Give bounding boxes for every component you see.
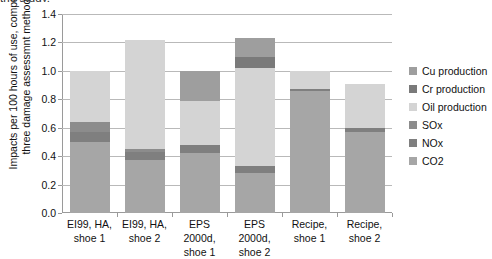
legend-item-label: Cu production — [422, 65, 487, 77]
y-axis-tick-label: 0.4 — [41, 150, 56, 162]
x-axis-category-label-line: shoe 2 — [117, 231, 173, 245]
x-axis-category-label-line: shoe 2 — [337, 231, 393, 245]
gridline — [62, 185, 392, 186]
y-axis-tick-mark — [58, 42, 62, 43]
bar-stack[interactable] — [345, 14, 385, 213]
x-axis-category-label-line: EPS 2000d, — [227, 217, 283, 245]
gridline — [62, 14, 392, 15]
bar-segment[interactable] — [180, 101, 220, 145]
bar-segment[interactable] — [235, 173, 275, 213]
x-axis-category-label-line: shoe 2 — [227, 245, 283, 259]
bar-segment[interactable] — [290, 71, 330, 89]
y-axis-tick-mark — [58, 128, 62, 129]
gridline — [62, 128, 392, 129]
legend-swatch-icon — [409, 157, 417, 165]
x-axis-category-label: Recipe,shoe 1 — [282, 217, 338, 245]
legend-swatch-icon — [409, 139, 417, 147]
bar-segment[interactable] — [290, 91, 330, 213]
bar-segment[interactable] — [70, 132, 110, 142]
bar-segment[interactable] — [125, 152, 165, 161]
y-axis-tick-label: 0.8 — [41, 93, 56, 105]
legend-item[interactable]: CO2 — [409, 152, 492, 170]
legend-item[interactable]: Cr production — [409, 80, 492, 98]
y-axis-tick-mark — [58, 14, 62, 15]
y-axis-tick-label: 0.0 — [41, 207, 56, 219]
y-axis-tick-mark — [58, 99, 62, 100]
x-axis-category-label-line: EI99, HA, — [62, 217, 118, 231]
x-axis-category-label-line: Recipe, — [282, 217, 338, 231]
x-axis-category-label: Recipe,shoe 2 — [337, 217, 393, 245]
legend-item[interactable]: Cu production — [409, 62, 492, 80]
chart-plot-wrapper: 0.00.20.40.60.81.01.21.4 EI99, HA,shoe 1… — [62, 14, 392, 213]
bar-stack[interactable] — [180, 14, 220, 213]
bar-segment[interactable] — [125, 40, 165, 149]
y-axis-tick-label: 1.2 — [41, 36, 56, 48]
bar-stack[interactable] — [70, 14, 110, 213]
x-axis-category-label-line: shoe 1 — [172, 245, 228, 259]
gridline — [62, 42, 392, 43]
bar-segment[interactable] — [125, 160, 165, 213]
bar-segment[interactable] — [345, 128, 385, 132]
x-axis-category-label-line: shoe 1 — [62, 231, 118, 245]
y-axis-tick-label: 1.4 — [41, 8, 56, 20]
y-axis-tick-label: 1.0 — [41, 65, 56, 77]
bar-segment[interactable] — [235, 166, 275, 173]
x-axis-category-label: EPS 2000d,shoe 1 — [172, 217, 228, 259]
gridline — [62, 99, 392, 100]
bar-segment[interactable] — [345, 132, 385, 213]
x-axis-category-label-line: EI99, HA, — [117, 217, 173, 231]
legend-swatch-icon — [409, 103, 417, 111]
y-axis-title: Impacts per 100 hours of use, comparing … — [4, 0, 36, 169]
y-axis-tick-mark — [58, 156, 62, 157]
x-axis-category-label-line: Recipe, — [337, 217, 393, 231]
legend-swatch-icon — [409, 85, 417, 93]
legend-item-label: NOx — [422, 137, 443, 149]
bar-stack[interactable] — [235, 14, 275, 213]
bar-segment[interactable] — [70, 142, 110, 213]
bar-stack[interactable] — [290, 14, 330, 213]
x-axis-category-label-line: EPS 2000d, — [172, 217, 228, 245]
bar-segment[interactable] — [180, 153, 220, 213]
x-axis-category-label-line: shoe 1 — [282, 231, 338, 245]
y-axis-tick-label: 0.2 — [41, 179, 56, 191]
y-axis-tick-mark — [58, 71, 62, 72]
bar-segment[interactable] — [180, 71, 220, 101]
chart-plot-area — [62, 14, 392, 213]
x-axis-category-label: EPS 2000d,shoe 2 — [227, 217, 283, 259]
bar-segment[interactable] — [290, 89, 330, 92]
bar-segment[interactable] — [235, 57, 275, 68]
legend-item-label: Cr production — [422, 83, 485, 95]
chart-legend: Cu productionCr productionOil production… — [409, 62, 492, 170]
y-axis-tick-mark — [58, 213, 62, 214]
legend-item[interactable]: NOx — [409, 134, 492, 152]
x-axis-category-label: EI99, HA,shoe 1 — [62, 217, 118, 245]
legend-swatch-icon — [409, 121, 417, 129]
bar-segment[interactable] — [125, 149, 165, 152]
legend-swatch-icon — [409, 67, 417, 75]
legend-item-label: CO2 — [422, 155, 444, 167]
bar-stack[interactable] — [125, 14, 165, 213]
gridline — [62, 156, 392, 157]
bar-segment[interactable] — [345, 84, 385, 127]
bar-segment[interactable] — [235, 68, 275, 166]
y-axis-title-line-1: Impacts per 100 hours of use, comparing — [7, 0, 20, 169]
bar-segment[interactable] — [235, 38, 275, 56]
legend-item[interactable]: SOx — [409, 116, 492, 134]
legend-item-label: Oil production — [422, 101, 487, 113]
y-axis-tick-label: 0.6 — [41, 122, 56, 134]
x-axis-category-label: EI99, HA,shoe 2 — [117, 217, 173, 245]
gridline — [62, 71, 392, 72]
bar-segment[interactable] — [180, 145, 220, 154]
y-axis-title-line-2: three damage assessmnt methods — [20, 0, 33, 155]
bar-segment[interactable] — [70, 122, 110, 132]
legend-item[interactable]: Oil production — [409, 98, 492, 116]
bar-segment[interactable] — [70, 71, 110, 122]
legend-item-label: SOx — [422, 119, 442, 131]
y-axis-tick-mark — [58, 185, 62, 186]
